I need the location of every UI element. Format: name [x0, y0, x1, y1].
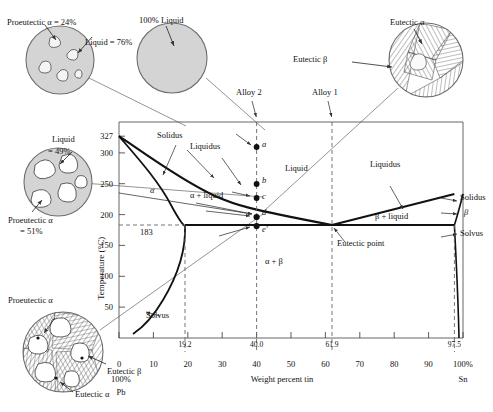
composition-label-19-2: 19.2 — [178, 340, 191, 349]
callout-proeutectic-alpha-24: Proeutectic α = 24% — [7, 18, 76, 28]
label-point-d: d — [262, 208, 266, 218]
region-label-beta-liquid: β + liquid — [375, 212, 408, 222]
region-label-alpha: α — [150, 186, 154, 196]
label-point-a: a — [262, 140, 266, 150]
y-axis-ticks — [119, 136, 125, 307]
label-point-b: b — [262, 176, 266, 186]
callout-proeutectic-alpha-51-line1: Proeutectic α — [8, 216, 53, 226]
liquidus-alpha-curve — [119, 136, 332, 225]
point-a-marker — [254, 144, 260, 150]
solvus-beta-curve — [454, 225, 459, 338]
label-liquidus-left: Liquidus — [190, 142, 220, 152]
label-solidus-right: Solidus — [460, 193, 486, 203]
label-alloy-1: Alloy 1 — [312, 88, 338, 98]
micrograph-leader-lines — [83, 76, 398, 330]
label-solidus-left: Solidus — [157, 131, 183, 141]
x-tick-0: 0 — [117, 359, 121, 369]
y-tick-327: 327 — [85, 131, 113, 141]
label-eutectic-temperature: 183 — [140, 228, 153, 238]
x-axis-left-end-bottom: Pb — [117, 387, 126, 397]
solidus-alpha-curve — [119, 136, 185, 225]
label-solvus-left: Solvus — [146, 311, 169, 321]
region-label-liquid: Liquid — [285, 164, 308, 174]
plot-frame — [119, 122, 463, 338]
callout-liquid-49-line2: = 49% — [48, 147, 71, 157]
x-tick-30: 30 — [218, 359, 227, 369]
callout-liquid-76: Liquid = 76% — [85, 38, 132, 48]
micrograph-proeutectic-24 — [26, 26, 94, 94]
x-tick-80: 80 — [390, 359, 399, 369]
y-tick-50: 50 — [85, 302, 113, 312]
marked-points — [254, 144, 260, 229]
y-tick-100: 100 — [85, 271, 113, 281]
alloy-label-arrows — [252, 101, 332, 117]
callout-proeutectic-alpha-bottom: Proeutectic α — [8, 296, 53, 306]
y-tick-200: 200 — [85, 210, 113, 220]
x-axis-ticks — [119, 332, 463, 338]
micrograph-liquid-49 — [24, 148, 92, 216]
composition-label-97-5: 97.5 — [448, 340, 461, 349]
label-alloy-2: Alloy 2 — [236, 88, 262, 98]
x-tick-100: 100% — [453, 359, 473, 369]
point-e-marker — [254, 223, 260, 229]
y-tick-150: 150 — [85, 240, 113, 250]
x-tick-10: 10 — [149, 359, 158, 369]
callout-proeutectic-alpha-51-line2: = 51% — [20, 227, 43, 237]
composition-label-61-9: 61.9 — [325, 340, 338, 349]
callout-eutectic-alpha-bottom: Eutectic α — [75, 390, 109, 400]
x-axis-title: Weight percent tin — [251, 374, 314, 384]
figure-canvas — [0, 0, 493, 412]
region-label-alpha-beta: α + β — [265, 257, 283, 267]
region-label-alpha-liquid: α + liquid — [190, 191, 223, 201]
micrograph-eutectic-structure — [389, 23, 466, 97]
label-point-c: c — [262, 192, 266, 202]
label-eutectic-point: Eutectic point — [337, 239, 384, 249]
label-point-e: e' — [262, 225, 268, 235]
x-tick-70: 70 — [356, 359, 365, 369]
x-tick-60: 60 — [321, 359, 330, 369]
label-solvus-right: Solvus — [460, 229, 483, 239]
x-axis-right-end-bottom: Sn — [459, 374, 468, 384]
x-tick-40: 40 — [252, 359, 261, 369]
callout-eutectic-alpha-top: Eutectic α — [390, 18, 424, 28]
micrograph-all-liquid — [137, 23, 207, 93]
point-c-marker — [254, 195, 260, 201]
phase-diagram-figure: Proeutectic α = 24% Liquid = 76% 100% Li… — [0, 0, 493, 412]
y-tick-250: 250 — [85, 179, 113, 189]
y-tick-300: 300 — [85, 148, 113, 158]
callout-liquid-49-line1: Liquid — [52, 135, 75, 145]
callout-eutectic-beta-top: Eutectic β — [293, 55, 327, 65]
x-tick-50: 50 — [287, 359, 296, 369]
point-d-marker — [254, 214, 260, 220]
construction-dashed-lines — [119, 122, 454, 352]
callout-100-liquid: 100% Liquid — [139, 16, 184, 26]
composition-label-40-0: 40.0 — [250, 340, 263, 349]
x-tick-20: 20 — [184, 359, 193, 369]
label-liquidus-right: Liquidus — [370, 160, 400, 170]
x-axis-left-end-top: 100% — [111, 374, 131, 384]
x-tick-90: 90 — [424, 359, 433, 369]
point-b-marker — [254, 181, 260, 187]
micrograph-final-structure — [23, 312, 103, 392]
label-beta-right: β — [464, 208, 468, 218]
